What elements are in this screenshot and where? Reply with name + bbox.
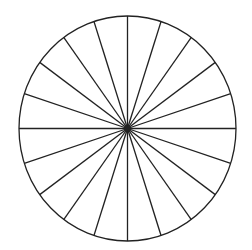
sector-spoke — [128, 94, 231, 129]
sector-spoke — [128, 129, 216, 195]
sector-spoke — [128, 129, 162, 236]
sector-spoke — [24, 129, 127, 164]
sector-spoke — [40, 62, 128, 128]
sector-spoke — [128, 22, 162, 129]
sector-spoke — [128, 129, 192, 220]
sector-spoke — [94, 129, 128, 236]
sector-spoke — [64, 37, 128, 128]
sector-spoke — [128, 37, 192, 128]
sector-spoke — [64, 129, 128, 220]
sector-spoke — [128, 129, 231, 164]
center-point — [125, 126, 131, 132]
sector-spoke — [40, 129, 128, 195]
sector-spoke — [24, 94, 127, 129]
diagram-stage — [0, 0, 252, 250]
sector-spoke — [94, 22, 128, 129]
sector-spoke — [128, 62, 216, 128]
divided-circle-diagram — [0, 0, 252, 250]
